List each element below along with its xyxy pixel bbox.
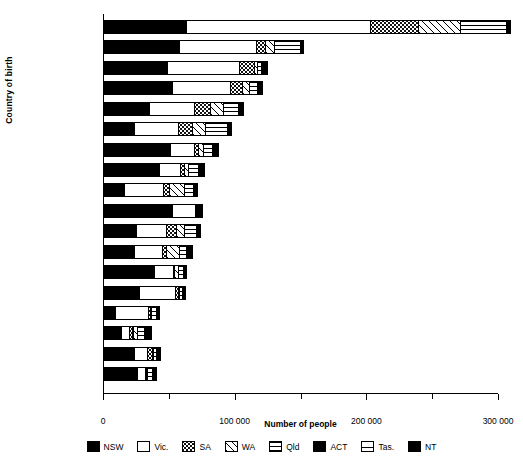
bar-segment-nsw xyxy=(103,245,135,259)
legend-item-tas[interactable]: Tas. xyxy=(361,441,394,452)
stacked-bar xyxy=(103,122,232,136)
bar-segment-vic xyxy=(172,204,196,218)
stacked-bar xyxy=(103,81,263,95)
x-tick xyxy=(498,394,499,400)
bar-segment-vic xyxy=(149,102,195,116)
legend-swatch-icon xyxy=(225,441,238,452)
bar-segment-vic xyxy=(134,347,148,361)
legend-swatch-icon xyxy=(87,441,100,452)
bar-segment-wa xyxy=(169,183,185,197)
bar-segment-vic xyxy=(167,61,240,75)
stacked-bar xyxy=(103,20,511,34)
bar-segment-wa xyxy=(192,122,205,136)
stacked-bar xyxy=(103,61,268,75)
bar-segment-nt xyxy=(241,102,244,116)
x-tick xyxy=(301,394,302,399)
legend-label: SA xyxy=(199,442,210,452)
bar-segment-nsw xyxy=(103,81,173,95)
bar-segment-sa xyxy=(194,102,211,116)
bar-segment-nt xyxy=(302,40,304,54)
stacked-bar xyxy=(103,143,219,157)
chart-legend: NSWVic.SAWAQldACTTas.NT xyxy=(0,441,523,452)
bar-segment-wa xyxy=(166,245,180,259)
bar-segment-nsw xyxy=(103,163,160,177)
bar-segment-nsw xyxy=(103,40,180,54)
x-tick xyxy=(366,394,367,400)
stacked-bar xyxy=(103,347,161,361)
legend-swatch-icon xyxy=(182,441,195,452)
stacked-bar xyxy=(103,204,203,218)
bar-segment-sa xyxy=(178,122,193,136)
bar-segment-vic xyxy=(124,183,164,197)
stacked-bar xyxy=(103,367,157,381)
bar-segment-nsw xyxy=(103,286,140,300)
bar-segment-nt xyxy=(158,306,160,320)
legend-label: Vic. xyxy=(154,442,168,452)
bar-segment-sa xyxy=(370,20,419,34)
legend-swatch-icon xyxy=(137,441,150,452)
bar-segment-nsw xyxy=(103,61,168,75)
x-tick xyxy=(235,394,236,400)
legend-swatch-icon xyxy=(408,441,421,452)
bar-segment-wa xyxy=(210,102,224,116)
bar-segment-sa xyxy=(239,61,255,75)
bar-segment-nsw xyxy=(103,122,135,136)
bar-segment-vic xyxy=(154,265,174,279)
bar-segment-nt xyxy=(201,163,206,177)
bar-segment-nt xyxy=(509,20,511,34)
bar-segment-vic xyxy=(172,81,231,95)
bar-segment-nt xyxy=(230,122,232,136)
stacked-bar xyxy=(103,286,186,300)
legend-label: NT xyxy=(425,442,436,452)
x-axis-title-label: Number of people xyxy=(264,419,336,429)
x-tick xyxy=(169,394,170,399)
legend-item-sa[interactable]: SA xyxy=(182,441,210,452)
bar-segment-vic xyxy=(136,224,166,238)
bar-segment-nt xyxy=(159,347,161,361)
bar-segment-vic xyxy=(134,245,162,259)
legend-label: Qld xyxy=(286,442,299,452)
stacked-bar xyxy=(103,245,193,259)
legend-label: ACT xyxy=(330,442,347,452)
stacked-bar xyxy=(103,224,201,238)
bar-segment-nt xyxy=(146,326,152,340)
y-axis-title: Country of birth xyxy=(4,30,14,150)
bar-segment-vic xyxy=(139,286,176,300)
bar-segment-qld xyxy=(274,40,301,54)
bar-segment-nt xyxy=(184,286,186,300)
chart-root: Country of birth ItalyYugoslaviaGreeceVi… xyxy=(0,0,523,475)
legend-swatch-icon xyxy=(313,441,326,452)
legend-item-qld[interactable]: Qld xyxy=(269,441,299,452)
legend-label: Tas. xyxy=(378,442,394,452)
legend-item-nt[interactable]: NT xyxy=(408,441,436,452)
bar-segment-nt xyxy=(190,245,193,259)
legend-item-vic[interactable]: Vic. xyxy=(137,441,168,452)
bar-segment-nt xyxy=(155,367,157,381)
bar-segment-nt xyxy=(261,81,263,95)
stacked-bar xyxy=(103,306,160,320)
bar-segment-nsw xyxy=(103,347,135,361)
bar-segment-nsw xyxy=(103,265,155,279)
bar-segment-nsw xyxy=(103,367,138,381)
stacked-bar xyxy=(103,326,152,340)
legend-swatch-icon xyxy=(269,441,282,452)
bar-segment-nt xyxy=(201,204,203,218)
bar-segment-nsw xyxy=(103,102,150,116)
stacked-bar xyxy=(103,102,244,116)
bar-segment-nsw xyxy=(103,143,171,157)
bar-segment-nsw xyxy=(103,20,187,34)
legend-item-act[interactable]: ACT xyxy=(313,441,347,452)
x-tick xyxy=(432,394,433,399)
bar-segment-nt xyxy=(196,183,199,197)
bar-segment-qld xyxy=(205,122,229,136)
legend-item-nsw[interactable]: NSW xyxy=(87,441,124,452)
legend-item-wa[interactable]: WA xyxy=(225,441,255,452)
stacked-bar xyxy=(103,163,205,177)
bar-segment-nt xyxy=(185,265,187,279)
bar-segment-vic xyxy=(170,143,195,157)
bar-segment-vic xyxy=(179,40,257,54)
bar-segment-qld xyxy=(223,102,239,116)
x-axis-title: Number of people xyxy=(103,419,498,429)
bar-segment-nt xyxy=(263,61,268,75)
legend-label: NSW xyxy=(104,442,124,452)
